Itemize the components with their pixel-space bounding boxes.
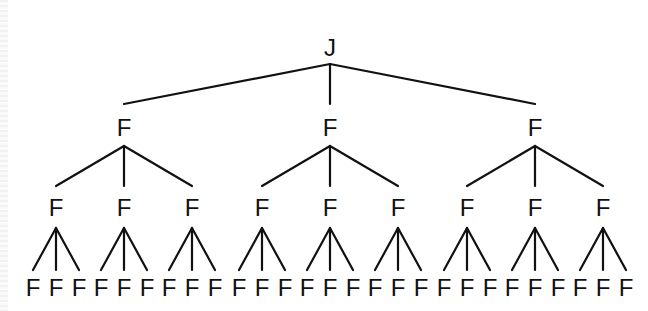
edge-level2-to-leaf — [307, 228, 330, 270]
edge-level1-to-level2 — [330, 146, 398, 186]
edge-level2-to-leaf — [192, 228, 215, 270]
edge-level2-to-leaf — [603, 228, 626, 270]
level2-node-label: F — [391, 194, 406, 221]
leaf-node-label: F — [94, 274, 109, 301]
leaf-node-label: F — [117, 274, 132, 301]
leaf-node-label: F — [72, 274, 87, 301]
level2-node-label: F — [596, 194, 611, 221]
leaf-node-label: F — [323, 274, 338, 301]
tree-diagram: JFFFFFFFFFFFFFFFFFFFFFFFFFFFFFFFFFFFFFFF — [0, 0, 648, 311]
leaf-node-label: F — [140, 274, 155, 301]
leaf-node-label: F — [619, 274, 634, 301]
edge-root-to-level1 — [124, 64, 330, 104]
level2-node-label: F — [255, 194, 270, 221]
level2-node-label: F — [323, 194, 338, 221]
edge-level2-to-leaf — [239, 228, 262, 270]
leaf-node-label: F — [232, 274, 247, 301]
level2-node-label: F — [185, 194, 200, 221]
edge-level2-to-leaf — [580, 228, 603, 270]
edge-level1-to-level2 — [56, 146, 124, 186]
level2-node-label: F — [528, 194, 543, 221]
edge-root-to-level1 — [330, 64, 535, 104]
leaf-node-label: F — [278, 274, 293, 301]
level1-node-label: F — [323, 114, 338, 141]
edge-level1-to-level2 — [124, 146, 192, 186]
leaf-node-label: F — [596, 274, 611, 301]
edge-level2-to-leaf — [101, 228, 124, 270]
leaf-node-label: F — [551, 274, 566, 301]
leaf-node-label: F — [505, 274, 520, 301]
root-node-label: J — [324, 34, 336, 61]
leaf-node-label: F — [255, 274, 270, 301]
tree-edges — [33, 64, 626, 270]
edge-level2-to-leaf — [262, 228, 285, 270]
edge-level2-to-leaf — [512, 228, 535, 270]
edge-level2-to-leaf — [169, 228, 192, 270]
edge-level2-to-leaf — [330, 228, 353, 270]
edge-level2-to-leaf — [467, 228, 490, 270]
leaf-node-label: F — [460, 274, 475, 301]
edge-level1-to-level2 — [262, 146, 330, 186]
edge-level2-to-leaf — [33, 228, 56, 270]
level2-node-label: F — [117, 194, 132, 221]
leaf-node-label: F — [528, 274, 543, 301]
leaf-node-label: F — [346, 274, 361, 301]
edge-level2-to-leaf — [398, 228, 421, 270]
leaf-node-label: F — [414, 274, 429, 301]
level1-node-label: F — [117, 114, 132, 141]
leaf-node-label: F — [49, 274, 64, 301]
leaf-node-label: F — [368, 274, 383, 301]
leaf-node-label: F — [483, 274, 498, 301]
leaf-node-label: F — [300, 274, 315, 301]
edge-level2-to-leaf — [375, 228, 398, 270]
leaf-node-label: F — [437, 274, 452, 301]
leaf-node-label: F — [185, 274, 200, 301]
edge-level2-to-leaf — [535, 228, 558, 270]
edge-level2-to-leaf — [444, 228, 467, 270]
edge-level1-to-level2 — [535, 146, 603, 186]
leaf-node-label: F — [26, 274, 41, 301]
leaf-node-label: F — [573, 274, 588, 301]
edge-level2-to-leaf — [56, 228, 79, 270]
leaf-node-label: F — [391, 274, 406, 301]
level2-node-label: F — [49, 194, 64, 221]
edge-level2-to-leaf — [124, 228, 147, 270]
level2-node-label: F — [460, 194, 475, 221]
leaf-node-label: F — [208, 274, 223, 301]
edge-level1-to-level2 — [467, 146, 535, 186]
leaf-node-label: F — [162, 274, 177, 301]
level1-node-label: F — [528, 114, 543, 141]
